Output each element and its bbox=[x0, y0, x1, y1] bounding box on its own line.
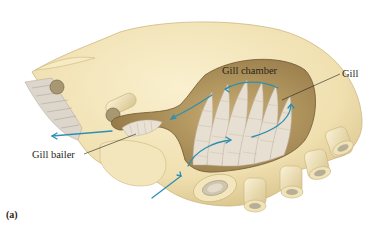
gill-bailer-label: Gill bailer bbox=[32, 150, 75, 161]
gill-label: Gill bbox=[342, 69, 358, 80]
gill-chamber-label: Gill chamber bbox=[222, 66, 277, 77]
panel-label: (a) bbox=[6, 210, 18, 220]
gill-chamber-illustration bbox=[0, 0, 377, 231]
